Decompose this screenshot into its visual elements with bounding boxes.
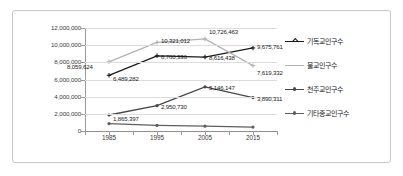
- legend-item-other-religions[interactable]: 기타종교인구수: [285, 105, 349, 121]
- x-axis-tick-label: 2005: [185, 135, 225, 141]
- y-axis-tick-mark: [81, 114, 85, 115]
- series-line: [109, 87, 253, 115]
- y-axis-tick-mark: [81, 28, 85, 29]
- legend-label-other-religions: 기타종교인구수: [307, 110, 349, 117]
- series-marker: [155, 124, 158, 127]
- legend-swatch-catholic: [285, 84, 304, 94]
- data-point-label: 1,865,397: [113, 116, 139, 122]
- series-marker: [107, 73, 111, 77]
- y-axis-tick-label: 12,000,000: [29, 25, 81, 31]
- chart-legend: 기독교인구수 불교인구수 천주교인구수 기타종교인구수: [285, 33, 389, 128]
- legend-swatch-buddhist: [285, 60, 304, 70]
- series-marker: [251, 125, 254, 128]
- gridline: [85, 97, 277, 98]
- y-axis-tick-label: 2,000,000: [29, 111, 81, 117]
- series-marker: [155, 54, 159, 58]
- chart-plot-wrapper: 12,000,00010,000,0008,000,0006,000,0004,…: [13, 11, 392, 164]
- y-axis-tick-mark: [81, 97, 85, 98]
- x-axis-tick-label: 2015: [233, 135, 273, 141]
- series-marker: [155, 104, 158, 107]
- series-marker: [203, 85, 206, 88]
- y-axis-tick-label: 6,000,000: [29, 77, 81, 83]
- data-point-label: 6,489,282: [113, 76, 139, 82]
- series-marker: [155, 40, 159, 44]
- legend-label-christian: 기독교인구수: [307, 38, 343, 45]
- gridline: [85, 28, 277, 29]
- y-axis-tick-mark: [81, 80, 85, 81]
- data-point-label: 10,726,463: [209, 29, 238, 35]
- y-axis-tick-mark: [81, 45, 85, 46]
- legend-swatch-other-religions: [285, 108, 304, 118]
- x-axis-labels: 1985199520052015: [85, 135, 285, 147]
- y-axis-tick-label: 0: [29, 128, 81, 134]
- data-point-label: 5,146,147: [209, 85, 235, 91]
- legend-label-catholic: 천주교인구수: [307, 86, 343, 93]
- data-point-label: 7,619,332: [257, 70, 283, 76]
- legend-item-christian[interactable]: 기독교인구수: [285, 33, 343, 49]
- gridline: [85, 62, 277, 63]
- gridline: [85, 45, 277, 46]
- data-point-label: 2,950,730: [161, 104, 187, 110]
- data-point-label: 8,760,336: [161, 54, 187, 60]
- y-axis-tick-label: 4,000,000: [29, 94, 81, 100]
- legend-swatch-christian: [285, 36, 304, 46]
- data-point-label: 9,675,761: [257, 44, 283, 50]
- series-marker: [251, 46, 255, 50]
- legend-label-buddhist: 불교인구수: [307, 62, 337, 69]
- series-marker: [203, 125, 206, 128]
- data-point-label: 3,890,311: [257, 96, 282, 102]
- data-point-label: 8,059,624: [67, 64, 93, 70]
- plot-area: 6,489,2828,760,3368,616,4389,675,7618,05…: [85, 28, 277, 131]
- data-point-label: 10,321,012: [161, 38, 190, 44]
- x-axis-tick-label: 1995: [137, 135, 177, 141]
- series-line: [109, 124, 253, 127]
- y-axis-tick-label: 10,000,000: [29, 42, 81, 48]
- y-axis-labels: 12,000,00010,000,0008,000,0006,000,0004,…: [27, 11, 81, 164]
- data-point-label: 8,616,438: [209, 55, 235, 61]
- series-marker: [203, 55, 207, 59]
- chart-frame: 12,000,00010,000,0008,000,0006,000,0004,…: [12, 10, 391, 163]
- x-axis-tick-label: 1985: [89, 135, 129, 141]
- legend-item-buddhist[interactable]: 불교인구수: [285, 57, 337, 73]
- series-marker: [107, 122, 110, 125]
- legend-item-catholic[interactable]: 천주교인구수: [285, 81, 343, 97]
